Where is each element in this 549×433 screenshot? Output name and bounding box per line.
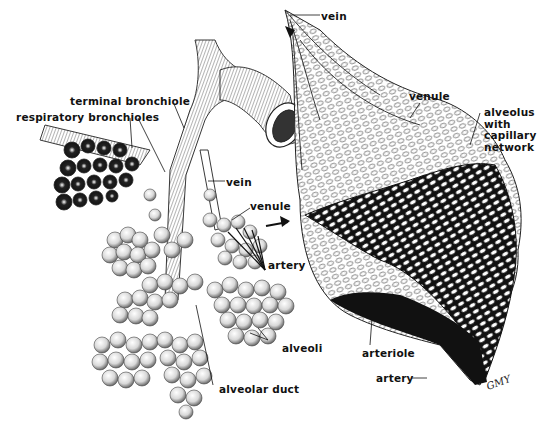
label-venule-left: venule [250, 200, 291, 212]
label-respiratory-bronchioles: respiratory bronchioles [16, 111, 159, 123]
label-artery-left: artery [268, 259, 306, 271]
illustration: GMY [0, 0, 549, 433]
label-alveolus-with-capillary-network: alveolus with capillary network [484, 107, 537, 153]
label-arteriole: arteriole [362, 347, 415, 359]
label-alveolar-duct: alveolar duct [219, 383, 299, 395]
diagram-canvas: GMY terminal bronchiole respiratory bron… [0, 0, 549, 433]
magnify-arrow [266, 216, 290, 227]
label-venule-right: venule [409, 90, 450, 102]
label-vein-right: vein [321, 10, 347, 22]
artist-signature: GMY [485, 373, 513, 392]
label-vein-left: vein [226, 176, 252, 188]
label-artery-right: artery [376, 372, 414, 384]
label-terminal-bronchiole: terminal bronchiole [70, 95, 190, 107]
label-alveoli: alveoli [282, 342, 322, 354]
alveolus-capillary-network [285, 10, 521, 385]
